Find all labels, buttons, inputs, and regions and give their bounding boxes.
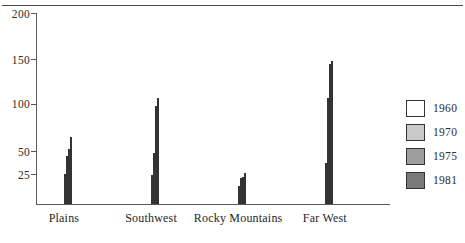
x-axis-group-label: Far West <box>303 211 347 226</box>
y-tick-label: 150 <box>12 54 30 66</box>
x-axis-line <box>36 204 390 205</box>
bar <box>331 61 333 204</box>
y-tick-mark <box>31 13 37 14</box>
legend-item: 1970 <box>406 120 457 144</box>
y-tick-label: 50 <box>18 146 30 158</box>
legend-label: 1960 <box>433 102 457 114</box>
x-axis-group-label: Southwest <box>125 211 177 226</box>
bar <box>70 137 72 204</box>
legend-swatch <box>406 124 425 141</box>
x-axis-group-label: Plains <box>49 211 80 226</box>
legend-swatch <box>406 100 425 117</box>
y-tick: 200 <box>36 13 37 14</box>
legend-label: 1970 <box>433 126 457 138</box>
y-tick-mark <box>31 59 37 60</box>
legend-item: 1960 <box>406 96 457 120</box>
y-tick-mark <box>31 104 37 105</box>
y-axis-line <box>36 14 37 205</box>
legend-label: 1975 <box>433 150 457 162</box>
x-axis-group-label: Rocky Mountains <box>194 211 283 226</box>
y-tick-label: 100 <box>12 98 30 110</box>
bar <box>244 173 246 204</box>
y-tick-label: 200 <box>12 8 30 20</box>
legend-item: 1975 <box>406 144 457 168</box>
chart-figure: 2001501005025 PlainsSouthwestRocky Mount… <box>0 0 465 243</box>
y-tick-label: 25 <box>18 169 30 181</box>
y-tick: 25 <box>36 174 37 175</box>
chart-legend: 1960197019751981 <box>406 96 457 192</box>
bar <box>157 98 159 204</box>
legend-swatch <box>406 172 425 189</box>
y-tick-mark <box>31 151 37 152</box>
plot-area: 2001501005025 PlainsSouthwestRocky Mount… <box>36 14 390 205</box>
y-tick-mark <box>31 174 37 175</box>
legend-item: 1981 <box>406 168 457 192</box>
y-tick: 100 <box>36 104 37 105</box>
legend-label: 1981 <box>433 174 457 186</box>
y-tick: 50 <box>36 151 37 152</box>
y-tick: 150 <box>36 59 37 60</box>
legend-swatch <box>406 148 425 165</box>
page-rule <box>2 5 463 6</box>
